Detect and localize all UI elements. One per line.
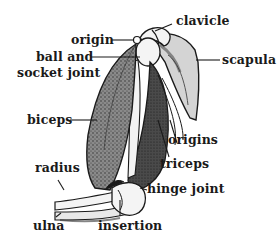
label-hinge-joint: hinge joint [147,182,225,196]
label-biceps: biceps [27,113,72,127]
label-insertion: insertion [98,219,162,233]
label-ball-and-socket-line2: socket joint [17,66,100,80]
label-clavicle: clavicle [176,14,230,28]
label-ulna: ulna [33,219,64,233]
label-triceps: triceps [160,157,209,171]
label-scapula: scapula [222,53,276,67]
label-ball-and-socket-line1: ball and [36,50,93,64]
label-origins: origins [168,133,218,147]
arm-anatomy-diagram: origin ball and socket joint clavicle sc… [0,0,277,241]
label-radius: radius [35,161,80,175]
label-origin: origin [71,33,114,47]
